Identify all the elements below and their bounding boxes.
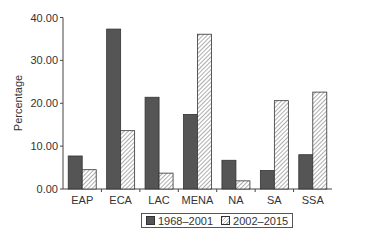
legend-label: 1968–2001 bbox=[158, 215, 213, 227]
y-tick-label: 0.00 bbox=[37, 183, 58, 195]
y-axis-title: Percentage bbox=[12, 75, 24, 131]
x-tick-label: SA bbox=[267, 194, 282, 206]
legend: 1968–2001 2002–2015 bbox=[141, 213, 293, 228]
bar-na-1968-2001 bbox=[222, 160, 236, 189]
bars bbox=[68, 29, 327, 189]
x-tick-label: EAP bbox=[71, 194, 93, 206]
bar-na-2002-2015 bbox=[236, 181, 250, 189]
bar-mena-1968-2001 bbox=[184, 114, 198, 189]
y-tick-label: 40.00 bbox=[30, 12, 58, 24]
x-tick-label: ECA bbox=[109, 194, 132, 206]
bar-sa-1968-2001 bbox=[260, 171, 274, 189]
legend-item-2002-2015: 2002–2015 bbox=[221, 215, 288, 227]
bar-eap-1968-2001 bbox=[68, 156, 82, 189]
bar-sa-2002-2015 bbox=[274, 101, 288, 189]
bar-chart: 0.0010.0020.0030.0040.00PercentageEAPECA… bbox=[0, 0, 367, 243]
y-tick-label: 20.00 bbox=[30, 97, 58, 109]
bar-ssa-1968-2001 bbox=[299, 155, 313, 189]
legend-item-1968-2001: 1968–2001 bbox=[146, 215, 213, 227]
x-tick-label: SSA bbox=[302, 194, 325, 206]
bar-eca-1968-2001 bbox=[107, 29, 121, 189]
legend-swatch-hatched bbox=[221, 216, 230, 225]
x-tick-label: LAC bbox=[148, 194, 169, 206]
x-tick-label: MENA bbox=[182, 194, 214, 206]
legend-label: 2002–2015 bbox=[233, 215, 288, 227]
y-tick-label: 30.00 bbox=[30, 54, 58, 66]
bar-eca-2002-2015 bbox=[121, 131, 135, 189]
y-tick-label: 10.00 bbox=[30, 140, 58, 152]
x-tick-label: NA bbox=[228, 194, 244, 206]
bar-lac-1968-2001 bbox=[145, 97, 159, 189]
legend-swatch-solid bbox=[146, 216, 155, 225]
bar-lac-2002-2015 bbox=[159, 173, 173, 189]
bar-mena-2002-2015 bbox=[198, 34, 212, 189]
bar-ssa-2002-2015 bbox=[313, 92, 327, 189]
bar-eap-2002-2015 bbox=[82, 170, 96, 189]
